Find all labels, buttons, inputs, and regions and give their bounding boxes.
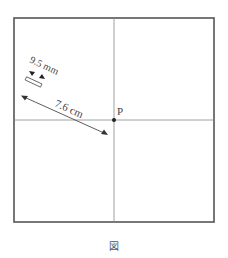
width-arrow-left-icon [29, 71, 35, 76]
diagram: P 7.6 cm 9.5 mm [0, 0, 228, 258]
width-arrow-right-icon [39, 74, 45, 79]
width-arrows [29, 71, 45, 79]
point-p [112, 118, 116, 122]
figure-caption: 図 [0, 238, 228, 253]
distance-label: 7.6 cm [53, 97, 86, 120]
slit-rectangle [25, 77, 42, 87]
point-p-label: P [117, 105, 123, 117]
